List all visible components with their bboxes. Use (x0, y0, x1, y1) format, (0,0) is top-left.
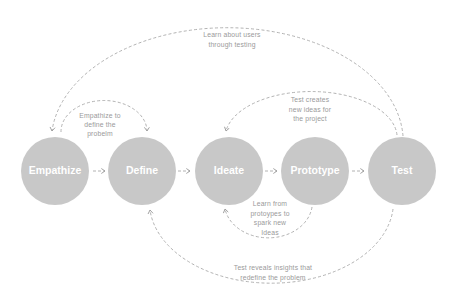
loop-label-prototype-to-ideate: Learn from protoypes to spark new Ideas (250, 200, 289, 236)
stage-test: Test (368, 137, 436, 205)
loop-label-line: define the (84, 121, 115, 128)
stage-label: Define (126, 164, 158, 176)
loop-label-line: Test creates (291, 96, 330, 103)
stage-label: Empathize (29, 164, 82, 176)
loop-label-test-to-ideate: Test creates new ideas for the project (289, 96, 332, 123)
stage-label: Test (392, 164, 413, 176)
loop-label-line: Ideas (261, 229, 279, 236)
stage-define: Define (108, 137, 176, 205)
loop-label-line: Learn from (253, 200, 288, 207)
loop-label-line: the project (293, 115, 326, 123)
loop-label-line: Empathize to (79, 112, 121, 120)
design-thinking-diagram: Empathize Define Ideate Prototype Test (0, 0, 458, 307)
loop-label-line: spark new (254, 219, 286, 227)
stage-prototype: Prototype (281, 137, 349, 205)
stages: Empathize Define Ideate Prototype Test (21, 137, 436, 205)
loop-label-line: probelm (87, 130, 113, 138)
loop-label-line: Learn about users (203, 31, 261, 38)
stage-empathize: Empathize (21, 137, 89, 205)
loop-label-test-to-define: Test reveals insights that redefine the … (234, 264, 312, 282)
diagram-canvas: Empathize Define Ideate Prototype Test (0, 0, 458, 307)
stage-ideate: Ideate (195, 137, 263, 205)
loop-label-line: new ideas for (289, 106, 332, 113)
loop-label-empathize-to-define: Empathize to define the probelm (79, 112, 121, 138)
loop-label-line: Test reveals insights that (234, 264, 312, 272)
stage-label: Prototype (290, 164, 339, 176)
stage-label: Ideate (214, 164, 245, 176)
loop-label-line: protoypes to (250, 210, 289, 218)
loop-label-line: redefine the problem (240, 274, 306, 282)
loop-label-test-to-empathize: Learn about users through testing (203, 31, 261, 49)
loop-label-line: through testing (208, 41, 255, 49)
